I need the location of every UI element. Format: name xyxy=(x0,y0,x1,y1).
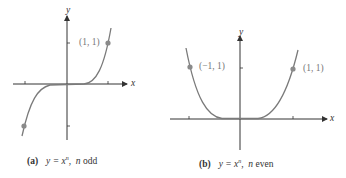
y-axis-label-a: y xyxy=(66,5,70,15)
caption-b-label: (b) xyxy=(199,159,211,169)
x-axis-label-b: x xyxy=(330,113,334,123)
caption-b-var: n xyxy=(248,159,253,169)
curve-even xyxy=(186,48,298,119)
caption-a-condition: odd xyxy=(83,156,97,166)
point-b-neg1-1 xyxy=(187,64,192,69)
figure-canvas xyxy=(0,0,346,178)
point-label-b-neg1-1: (−1, 1) xyxy=(199,61,225,71)
graph-a xyxy=(13,16,127,140)
graph-b xyxy=(170,36,327,150)
point-label-b-1-1: (1, 1) xyxy=(303,63,324,73)
y-axis-label-b: y xyxy=(239,27,243,37)
caption-a-equation: y = x xyxy=(46,156,66,166)
x-axis-label-a: x xyxy=(131,78,135,88)
caption-b-equation: y = x xyxy=(219,159,239,169)
point-a-neg1-neg1 xyxy=(21,123,26,128)
caption-a-var: n xyxy=(76,156,81,166)
point-a-1-1 xyxy=(105,40,110,45)
point-b-1-1 xyxy=(290,66,295,71)
caption-b: (b)y = xn, n even xyxy=(199,158,273,169)
caption-a-exponent: n xyxy=(66,155,69,161)
caption-b-condition: even xyxy=(255,159,273,169)
caption-a-label: (a) xyxy=(27,156,38,166)
caption-a: (a)y = xn, n odd xyxy=(27,155,97,166)
point-label-a-1-1: (1, 1) xyxy=(79,37,100,47)
caption-b-exponent: n xyxy=(238,158,241,164)
